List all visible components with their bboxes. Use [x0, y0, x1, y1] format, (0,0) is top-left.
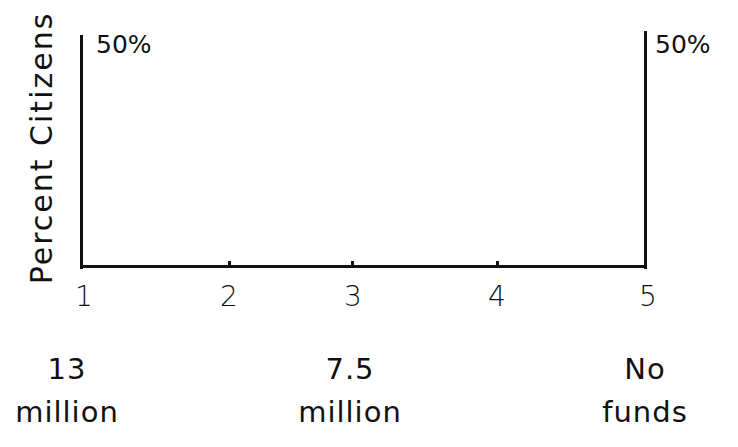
x-axis — [80, 265, 647, 268]
x-tick-label-2: 2 — [220, 280, 238, 313]
category-annotation-1: 13 million — [15, 348, 119, 434]
annotation-line2: funds — [602, 391, 688, 434]
left-y-max-label: 50% — [96, 30, 152, 59]
right-y-axis — [644, 31, 647, 269]
annotation-line1: No — [602, 348, 688, 391]
annotation-line1: 13 — [15, 348, 119, 391]
category-annotation-3: 7.5 million — [298, 348, 402, 434]
x-tick-label-4: 4 — [488, 280, 506, 313]
category-annotation-5: No funds — [602, 348, 688, 434]
x-tick-3 — [351, 261, 354, 267]
x-tick-4 — [496, 261, 499, 267]
annotation-line1: 7.5 — [298, 348, 402, 391]
right-y-max-label: 50% — [655, 30, 711, 59]
annotation-line2: million — [298, 391, 402, 434]
x-tick-label-5: 5 — [639, 280, 657, 313]
y-axis-label: Percent Citizens — [24, 12, 59, 285]
left-y-axis — [80, 35, 83, 269]
annotation-line2: million — [15, 391, 119, 434]
x-tick-label-3: 3 — [344, 280, 362, 313]
x-tick-2 — [228, 261, 231, 267]
x-tick-label-1: 1 — [75, 280, 93, 313]
